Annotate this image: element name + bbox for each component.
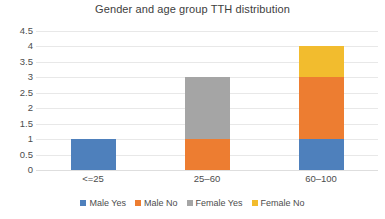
legend-swatch-icon bbox=[135, 200, 141, 206]
bar-group[interactable] bbox=[299, 46, 344, 170]
bar-segment-male-yes[interactable] bbox=[71, 139, 116, 170]
chart-container: Gender and age group TTH distribution 4.… bbox=[0, 0, 385, 219]
legend-item-female-no[interactable]: Female No bbox=[252, 198, 305, 208]
y-axis-tick-label: 2.5 bbox=[3, 88, 33, 98]
plot-area bbox=[36, 31, 378, 170]
bar-group[interactable] bbox=[71, 139, 116, 170]
y-axis: 4.543.532.521.510.50 bbox=[0, 31, 33, 170]
gridline bbox=[36, 170, 378, 171]
y-axis-tick-label: 2 bbox=[3, 103, 33, 113]
x-axis-tick-label: 60–100 bbox=[276, 173, 366, 185]
legend-swatch-icon bbox=[252, 200, 258, 206]
y-axis-tick-label: 3 bbox=[3, 72, 33, 82]
legend-swatch-icon bbox=[80, 200, 86, 206]
y-axis-tick-label: 3.5 bbox=[3, 57, 33, 67]
x-axis: <=2525–6060–100 bbox=[36, 173, 378, 187]
gridline bbox=[36, 31, 378, 32]
legend-item-female-yes[interactable]: Female Yes bbox=[187, 198, 243, 208]
legend-label: Female No bbox=[261, 198, 305, 208]
bar-segment-male-no[interactable] bbox=[299, 77, 344, 139]
chart-title: Gender and age group TTH distribution bbox=[0, 2, 385, 17]
y-axis-tick-label: 1.5 bbox=[3, 119, 33, 129]
y-axis-tick-label: 1 bbox=[3, 134, 33, 144]
legend-swatch-icon bbox=[187, 200, 193, 206]
legend-label: Male No bbox=[144, 198, 178, 208]
chart-legend: Male YesMale NoFemale YesFemale No bbox=[0, 198, 385, 208]
legend-label: Female Yes bbox=[196, 198, 243, 208]
y-axis-tick-label: 0.5 bbox=[3, 150, 33, 160]
y-axis-tick-label: 4.5 bbox=[3, 26, 33, 36]
bar-segment-female-no[interactable] bbox=[299, 46, 344, 77]
bar-segment-male-no[interactable] bbox=[185, 139, 230, 170]
legend-label: Male Yes bbox=[89, 198, 126, 208]
y-axis-tick-label: 4 bbox=[3, 41, 33, 51]
y-axis-tick-label: 0 bbox=[3, 165, 33, 175]
x-axis-tick-label: 25–60 bbox=[162, 173, 252, 185]
bar-segment-female-yes[interactable] bbox=[185, 77, 230, 139]
bar-group[interactable] bbox=[185, 77, 230, 170]
bar-segment-male-yes[interactable] bbox=[299, 139, 344, 170]
legend-item-male-no[interactable]: Male No bbox=[135, 198, 178, 208]
legend-item-male-yes[interactable]: Male Yes bbox=[80, 198, 126, 208]
x-axis-tick-label: <=25 bbox=[48, 173, 138, 185]
